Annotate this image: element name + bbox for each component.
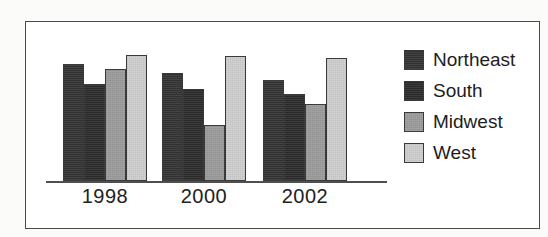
x-axis-line (46, 181, 387, 183)
bar-west-1998[interactable] (126, 55, 147, 181)
bar-south-2002[interactable] (284, 94, 305, 181)
legend-label-south: South (433, 80, 483, 102)
legend-swatch-west-icon (404, 143, 424, 163)
legend-swatch-south-icon (404, 81, 424, 101)
x-tick-label-2002: 2002 (257, 185, 353, 208)
x-tick-label-2000: 2000 (156, 185, 252, 208)
legend-item-south[interactable]: South (404, 75, 532, 106)
legend-swatch-northeast-icon (404, 50, 424, 70)
legend-label-midwest: Midwest (433, 111, 503, 133)
bar-group-2002 (263, 51, 347, 181)
plot-area: 199820002002 NortheastSouthMidwestWest (26, 22, 541, 230)
legend-swatch-midwest-icon (404, 112, 424, 132)
bar-northeast-2000[interactable] (162, 73, 183, 181)
bar-south-1998[interactable] (84, 84, 105, 182)
x-tick-label-1998: 1998 (57, 185, 153, 208)
legend-label-west: West (433, 142, 476, 164)
legend-item-northeast[interactable]: Northeast (404, 44, 532, 75)
bar-northeast-2002[interactable] (263, 80, 284, 181)
bar-northeast-1998[interactable] (63, 64, 84, 181)
bar-group-1998 (63, 51, 147, 181)
bar-south-2000[interactable] (183, 89, 204, 181)
chart-page: 199820002002 NortheastSouthMidwestWest (0, 0, 548, 237)
bar-west-2000[interactable] (225, 56, 246, 181)
legend-label-northeast: Northeast (433, 49, 515, 71)
bar-midwest-2000[interactable] (204, 125, 225, 181)
chart-frame: 199820002002 NortheastSouthMidwestWest (25, 21, 540, 229)
bar-west-2002[interactable] (326, 58, 347, 182)
bar-group-2000 (162, 51, 246, 181)
legend-item-west[interactable]: West (404, 137, 532, 168)
legend: NortheastSouthMidwestWest (404, 44, 532, 168)
bar-midwest-1998[interactable] (105, 69, 126, 181)
bar-midwest-2002[interactable] (305, 104, 326, 181)
legend-item-midwest[interactable]: Midwest (404, 106, 532, 137)
